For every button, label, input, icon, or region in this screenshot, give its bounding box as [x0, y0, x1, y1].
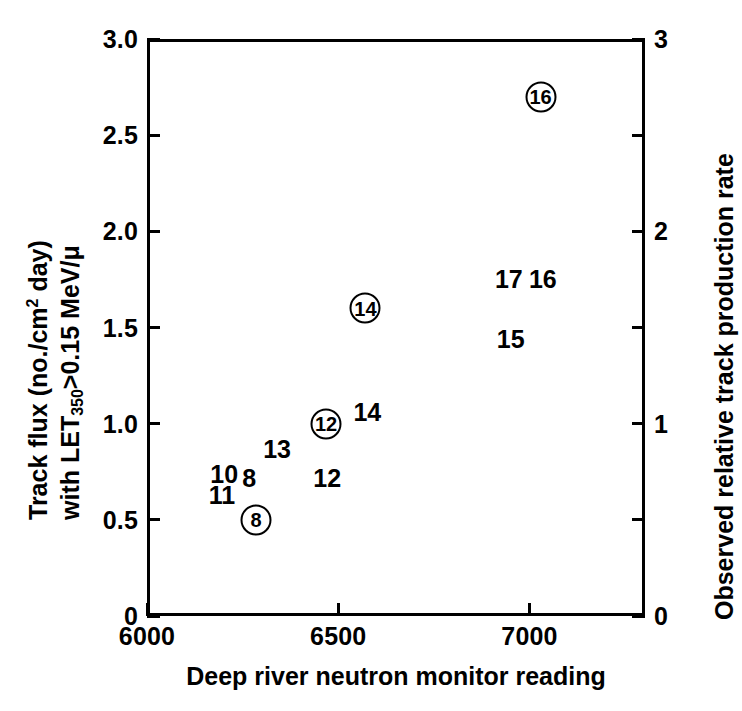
x-axis-tick [146, 603, 149, 616]
x-axis-tick-label: 6500 [310, 624, 366, 649]
y-axis-tick-label-left: 2.5 [60, 123, 138, 148]
x-axis-tick-label: 7000 [501, 624, 557, 649]
y-axis-tick-left [147, 518, 160, 521]
x-axis-tick [337, 603, 340, 616]
y-axis-tick-label-left: 2.0 [60, 219, 138, 244]
y-axis-tick-right [632, 422, 645, 425]
y-axis-tick-right [632, 615, 645, 618]
plot-frame [147, 39, 645, 616]
y-axis-tick-label-right: 3 [654, 27, 668, 52]
data-point-plain-13: 13 [263, 436, 291, 461]
data-point-circled-16: 16 [525, 81, 556, 112]
data-point-circled-12: 12 [311, 408, 342, 439]
y-axis-title-right: Observed relative track production rate [710, 153, 739, 620]
y-axis-tick-left [147, 326, 160, 329]
data-point-plain-12: 12 [313, 465, 341, 490]
y-axis-tick-label-right: 1 [654, 411, 668, 436]
y-axis-minor-tick-right [632, 518, 645, 521]
y-axis-tick-label-right: 2 [654, 219, 668, 244]
y-axis-tick-left [147, 422, 160, 425]
x-axis-tick-label: 6000 [119, 624, 175, 649]
y-axis-minor-tick-right [632, 134, 645, 137]
y-axis-title-line2: with LET350>0.15 MeV/μ [56, 245, 87, 520]
y-axis-tick-left [147, 134, 160, 137]
y-axis-tick-label-left: 3.0 [60, 27, 138, 52]
scatter-plot-figure: 00.51.01.52.02.53.00123600065007000Deep … [0, 0, 742, 711]
y-axis-tick-label-right: 0 [654, 604, 668, 629]
x-axis-tick [528, 603, 531, 616]
data-point-plain-15: 15 [497, 327, 525, 352]
data-point-plain-8: 8 [242, 465, 256, 490]
data-point-circled-14: 14 [350, 293, 381, 324]
y-axis-tick-left [147, 38, 160, 41]
data-point-plain-14: 14 [353, 400, 381, 425]
data-point-plain-10: 10 [210, 461, 238, 486]
data-point-circled-8: 8 [241, 504, 272, 535]
data-point-plain-16: 16 [529, 267, 557, 292]
x-axis-title: Deep river neutron monitor reading [186, 664, 606, 689]
y-axis-tick-left [147, 615, 160, 618]
y-axis-title-line1: Track flux (no./cm2 day) [24, 240, 53, 520]
y-axis-minor-tick-right [632, 326, 645, 329]
y-axis-tick-right [632, 230, 645, 233]
y-axis-tick-right [632, 38, 645, 41]
y-axis-tick-left [147, 230, 160, 233]
data-point-plain-17: 17 [495, 267, 523, 292]
